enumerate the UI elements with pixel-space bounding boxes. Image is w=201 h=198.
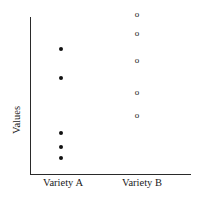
open-circle-marker: o bbox=[135, 88, 140, 97]
x-tick-label-variety-a: Variety A bbox=[43, 177, 83, 188]
open-circle-marker: o bbox=[135, 56, 140, 65]
open-circle-marker: o bbox=[135, 110, 140, 119]
y-axis-line bbox=[30, 17, 31, 175]
x-axis-line bbox=[30, 174, 191, 175]
x-tick-label-variety-b: Variety B bbox=[122, 177, 162, 188]
filled-dot-marker bbox=[59, 145, 63, 149]
filled-dot-marker bbox=[59, 156, 63, 160]
open-circle-marker: o bbox=[135, 29, 140, 38]
filled-dot-marker bbox=[59, 131, 63, 135]
dot-plot-chart: Values Variety A Variety B ooooo bbox=[0, 0, 201, 198]
filled-dot-marker bbox=[59, 76, 63, 80]
open-circle-marker: o bbox=[135, 10, 140, 19]
filled-dot-marker bbox=[59, 47, 63, 51]
y-axis-label: Values bbox=[11, 106, 22, 134]
